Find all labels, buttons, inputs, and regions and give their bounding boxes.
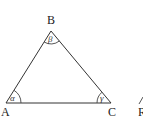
vertex-label-a: A [1,105,10,119]
vertex-label-b: B [47,13,55,27]
angle-label-alpha: α [10,93,15,103]
angle-label-beta: β [47,34,53,44]
triangle-diagram: α β γ A B C R [0,0,143,119]
cropped-vertex-label-r: R [138,105,143,119]
angle-arc-alpha [14,90,21,103]
vertex-label-c: C [108,105,116,119]
cropped-figure-edge [139,97,143,104]
angle-label-gamma: γ [100,93,104,103]
